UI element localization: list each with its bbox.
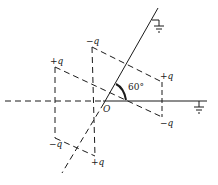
angle-label: 60°: [128, 83, 144, 92]
frame-center-vertical: [92, 47, 95, 156]
origin-label: O: [103, 105, 110, 114]
charge-bottom-middle: +q: [91, 158, 104, 167]
ground-top-icon: [152, 20, 164, 32]
charge-left-lower: −q: [49, 140, 62, 149]
charge-right-upper: +q: [160, 72, 173, 81]
ground-right-icon: [194, 101, 204, 113]
diagram-drawing: [0, 0, 218, 185]
frame-top-diagonal: [92, 47, 162, 82]
charge-right-lower: −q: [160, 119, 173, 128]
charge-top-middle: −q: [86, 37, 99, 46]
diagram-canvas: 60° O −q +q +q −q −q +q: [0, 0, 218, 185]
charge-left-upper: +q: [50, 57, 63, 66]
